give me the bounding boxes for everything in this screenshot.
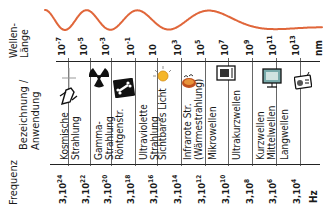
category-label: KurzwellenMittelwellen xyxy=(256,106,277,161)
wavelength-tick: 1011 xyxy=(266,35,278,56)
wavelength-tick: 10-5 xyxy=(77,37,89,56)
category-label: Röntgenstr. xyxy=(115,109,126,160)
microwave-icon xyxy=(216,64,236,82)
wavelength-tick: 10-1 xyxy=(124,37,136,56)
category-label: KosmischeStrahlung xyxy=(60,112,81,160)
wavelength-label: Wellen- Länge xyxy=(8,23,30,58)
wavelength-tick: 107 xyxy=(218,40,230,56)
space-shuttle-icon xyxy=(58,66,80,106)
category-label: Langwellen xyxy=(280,109,291,160)
frequency-tick: 3,1014 xyxy=(171,175,183,204)
wavelength-tick: 10-7 xyxy=(55,37,67,56)
wavelength-wave xyxy=(0,0,330,40)
category-label: Mikrowellen xyxy=(208,106,219,160)
wavelength-tick: 10 xyxy=(146,44,158,56)
category-label: Infrarote Str.(Wärmestrahlung) xyxy=(183,79,204,160)
frequency-unit: Hz xyxy=(308,190,319,203)
wavelength-tick: 10-3 xyxy=(99,37,111,56)
frequency-tick: 3,1016 xyxy=(147,175,159,204)
frequency-tick: 3,1018 xyxy=(124,175,136,204)
frequency-tick: 3,1020 xyxy=(101,175,113,204)
sun-icon xyxy=(153,66,173,86)
frequency-tick: 3,104 xyxy=(290,179,302,204)
frequency-tick: 3,1022 xyxy=(79,175,91,204)
radiation-icon xyxy=(89,66,109,88)
xray-bone-icon xyxy=(113,78,135,98)
category-label: Gamma-Strahlung xyxy=(94,116,115,160)
spectrum-divider xyxy=(252,58,253,166)
frequency-tick: 3,106 xyxy=(266,179,278,204)
frequency-tick: 3,1012 xyxy=(195,175,207,204)
radio-icon xyxy=(294,72,312,90)
wavelength-tick: 103 xyxy=(171,40,183,56)
category-label: Sichtbares Licht xyxy=(158,88,169,160)
category-label: Ultrakurzwellen xyxy=(232,90,243,160)
wavelength-tick: 109 xyxy=(243,40,255,56)
frequency-row-label: Frequenz xyxy=(8,160,20,205)
category-row-label: Bezeichnung / Anwendung xyxy=(18,80,42,150)
frequency-tick: 3,1024 xyxy=(56,175,68,204)
frequency-tick: 3,1010 xyxy=(219,175,231,204)
heat-lamp-icon xyxy=(180,73,198,89)
wavelength-tick: 1013 xyxy=(289,35,301,56)
top-axis-line xyxy=(56,61,320,62)
wavelength-tick: 105 xyxy=(194,40,206,56)
wavelength-unit: nm xyxy=(313,40,324,56)
frequency-tick: 3,108 xyxy=(243,179,255,204)
spectrum-divider xyxy=(135,58,136,166)
television-icon xyxy=(262,68,282,88)
spectrum-divider xyxy=(205,58,206,166)
